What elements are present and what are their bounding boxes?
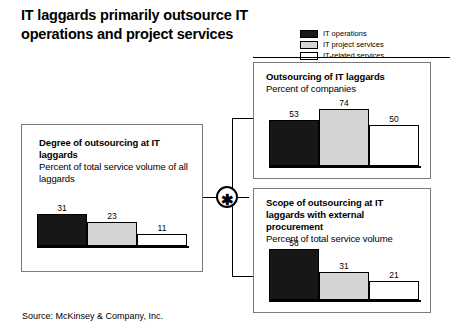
legend-item-label: IT operations [323, 29, 367, 38]
connector-line-top-panel [232, 118, 254, 119]
bar-value-label: 53 [289, 109, 298, 119]
bar-item: 23 [87, 196, 137, 246]
panel-subheading: Percent of companies [266, 83, 422, 95]
legend-swatch-icon [300, 30, 318, 38]
panel-heading: Degree of outsourcing at IT laggards [39, 137, 194, 161]
bar-rect-it-related-services [137, 234, 187, 246]
bar-value-label: 50 [389, 114, 398, 124]
panel-text-block: Degree of outsourcing at IT laggards Per… [39, 137, 194, 185]
bar-rect-it-project-services [319, 109, 369, 166]
legend-item-label: IT project services [323, 40, 384, 49]
bar-item: 58 [269, 238, 319, 300]
bar-item: 53 [269, 98, 319, 166]
bar-item: 31 [37, 196, 87, 246]
bar-value-label: 31 [57, 203, 66, 213]
bar-value-label: 11 [158, 223, 167, 233]
connector-line-bottom-panel [232, 276, 254, 277]
panel-heading: Outsourcing of IT laggards [266, 71, 422, 83]
bar-value-label: 58 [289, 238, 298, 248]
bar-item: 11 [137, 196, 187, 246]
bar-rect-it-operations [269, 249, 319, 300]
panel-text-block: Outsourcing of IT laggards Percent of co… [266, 71, 422, 95]
source-note: Source: McKinsey & Company, Inc. [22, 310, 163, 322]
bar-value-label: 23 [107, 211, 116, 221]
bar-rect-it-operations [269, 120, 319, 166]
axis-baseline-bottom-right [269, 300, 421, 302]
asterisk-node-icon: ✱ [216, 186, 238, 208]
bar-item: 31 [319, 238, 369, 300]
bar-value-label: 21 [389, 270, 398, 280]
asterisk-glyph: ✱ [221, 192, 234, 207]
bar-group-left: 31 23 11 [37, 196, 187, 246]
axis-baseline-left [37, 246, 189, 248]
legend-item-it-related-services: IT-related services [300, 51, 440, 61]
legend-swatch-icon [300, 52, 318, 60]
panel-subheading: Percent of total service volume of all l… [39, 161, 194, 185]
bar-value-label: 74 [339, 98, 348, 108]
bar-item: 50 [369, 98, 419, 166]
bar-rect-it-related-services [369, 281, 419, 300]
bar-group-bottom-right: 58 31 21 [269, 238, 419, 300]
bar-rect-it-project-services [319, 272, 369, 300]
bar-value-label: 31 [339, 261, 348, 271]
legend-item-it-project-services: IT project services [300, 40, 440, 50]
legend-item-label: IT-related services [323, 51, 384, 60]
bar-item: 74 [319, 98, 369, 166]
bar-rect-it-related-services [369, 125, 419, 166]
axis-baseline-top-right [269, 166, 421, 168]
legend-divider [253, 57, 450, 58]
page-title: IT laggards primarily outsource IT opera… [21, 6, 293, 44]
legend-item-it-operations: IT operations [300, 29, 440, 39]
bar-rect-it-operations [37, 214, 87, 246]
panel-heading: Scope of outsourcing at IT laggards with… [266, 197, 422, 233]
legend-swatch-icon [300, 41, 318, 49]
bar-rect-it-project-services [87, 222, 137, 246]
bar-item: 21 [369, 238, 419, 300]
bar-group-top-right: 53 74 50 [269, 98, 419, 166]
